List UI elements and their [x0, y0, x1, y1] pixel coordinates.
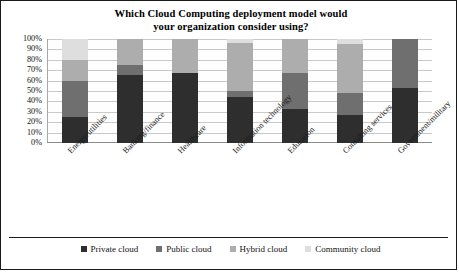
legend-swatch-icon: [305, 246, 311, 252]
legend-label: Hybrid cloud: [240, 244, 288, 254]
legend-label: Community cloud: [315, 244, 380, 254]
chart-frame: Which Cloud Computing deployment model w…: [0, 0, 457, 270]
x-axis-tick-labels: Energy/utilitiesBanking/financeHealthcar…: [1, 145, 459, 237]
y-tick-50: 50%: [27, 87, 42, 95]
y-tick-30: 30%: [27, 108, 42, 116]
bar-segment[interactable]: [62, 81, 88, 117]
bar-column[interactable]: [117, 39, 143, 143]
legend-item[interactable]: Hybrid cloud: [230, 244, 288, 254]
legend-swatch-icon: [81, 246, 87, 252]
bar-segment[interactable]: [337, 44, 363, 93]
bar-segment[interactable]: [227, 91, 253, 97]
legend-swatch-icon: [230, 246, 236, 252]
bar-column[interactable]: [172, 39, 198, 143]
legend-swatch-icon: [156, 246, 162, 252]
bar-segment[interactable]: [227, 39, 253, 43]
bar-segment[interactable]: [392, 39, 418, 88]
y-tick-100: 100%: [23, 35, 42, 43]
y-tick-80: 80%: [27, 56, 42, 64]
bar-segment[interactable]: [117, 65, 143, 75]
y-tick-20: 20%: [27, 118, 42, 126]
bar-segment[interactable]: [62, 60, 88, 81]
chart-title-line1: Which Cloud Computing deployment model w…: [115, 8, 348, 19]
chart-title-line2: your organization consider using?: [51, 20, 411, 33]
bar-column[interactable]: [337, 39, 363, 143]
y-tick-10: 10%: [27, 129, 42, 137]
legend-item[interactable]: Community cloud: [305, 244, 380, 254]
bar-segment[interactable]: [62, 39, 88, 60]
bar-column[interactable]: [282, 39, 308, 143]
legend-item[interactable]: Public cloud: [156, 244, 211, 254]
legend-label: Private cloud: [91, 244, 139, 254]
legend-item[interactable]: Private cloud: [81, 244, 139, 254]
legend-label: Public cloud: [166, 244, 211, 254]
bar-segment[interactable]: [117, 39, 143, 65]
chart-title: Which Cloud Computing deployment model w…: [51, 7, 411, 33]
bar-segment[interactable]: [227, 43, 253, 91]
bar-column[interactable]: [392, 39, 418, 143]
bar-segment[interactable]: [337, 93, 363, 115]
bar-segment[interactable]: [282, 39, 308, 73]
y-tick-40: 40%: [27, 97, 42, 105]
y-tick-70: 70%: [27, 66, 42, 74]
legend-divider: [9, 237, 448, 238]
bar-segment[interactable]: [172, 39, 198, 73]
chart-legend: Private cloudPublic cloudHybrid cloudCom…: [1, 244, 459, 254]
y-axis-tick-labels: 100%90%80%70%60%50%40%30%20%10%0%: [1, 33, 45, 149]
bar-column[interactable]: [62, 39, 88, 143]
y-tick-90: 90%: [27, 45, 42, 53]
bar-segment[interactable]: [337, 39, 363, 44]
y-tick-60: 60%: [27, 77, 42, 85]
bar-column[interactable]: [227, 39, 253, 143]
